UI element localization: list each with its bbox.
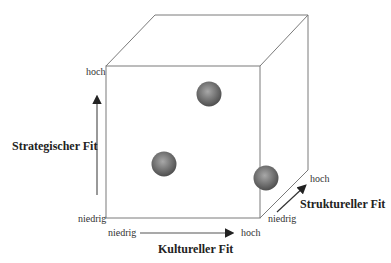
x-axis-low-label: niedrig [108, 227, 136, 238]
x-axis-high-label: hoch [241, 227, 260, 238]
cube-edge-top-left [106, 15, 155, 66]
y-axis-low-label: niedrig [78, 213, 106, 224]
z-axis-low-label: niedrig [268, 213, 296, 224]
y-axis-high-label: hoch [86, 66, 105, 77]
x-axis-title: Kultureller Fit [158, 242, 233, 257]
z-axis-title: Struktureller Fit [300, 197, 385, 212]
z-axis-high-label: hoch [310, 173, 329, 184]
y-axis-title: Strategischer Fit [12, 139, 97, 154]
sphere-top [197, 82, 222, 107]
sphere-mid-left [152, 152, 177, 177]
cube-front-face [106, 66, 260, 218]
cube-diagram [0, 0, 391, 263]
cube-edges [106, 15, 308, 218]
sphere-right-edge [254, 166, 279, 191]
cube-edge-top-right [260, 15, 308, 66]
